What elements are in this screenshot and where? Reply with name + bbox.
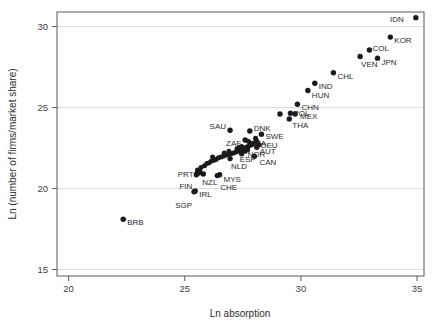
y-tick-label-30: 30 — [37, 21, 48, 32]
scatter-plot-figure: 20253035 15202530 IDNKORCOLVENJPNCHLINDH… — [0, 0, 444, 326]
x-tick-label-25: 25 — [179, 283, 190, 294]
scatter-plot-svg: 20253035 15202530 IDNKORCOLVENJPNCHLINDH… — [0, 0, 444, 326]
y-tick-label-25: 25 — [37, 102, 48, 113]
point-label-can: CAN — [259, 158, 276, 167]
data-point-hun — [305, 88, 310, 93]
point-label-nzl: NZL — [202, 178, 218, 187]
data-point-pol — [288, 111, 293, 116]
data-point-fin — [194, 172, 199, 177]
data-point-chn — [295, 102, 300, 107]
point-label-jpn: JPN — [382, 58, 397, 67]
point-label-idn: IDN — [390, 15, 404, 24]
data-point-tha — [287, 116, 292, 121]
point-label-sgp: SGP — [175, 201, 192, 210]
point-label-nld: NLD — [231, 162, 247, 171]
data-point-ven — [357, 54, 362, 59]
data-point-sau — [227, 128, 232, 133]
point-label-prt: PRT — [178, 170, 194, 179]
data-point-ind — [312, 81, 317, 86]
data-point — [222, 150, 227, 155]
point-label-col: COL — [372, 44, 389, 53]
point-label-che: CHE — [220, 183, 237, 192]
point-label-irl: IRL — [199, 190, 212, 199]
data-point-idn — [413, 15, 418, 20]
x-tick-label-30: 30 — [296, 283, 307, 294]
data-point-nld — [227, 156, 232, 161]
data-point — [210, 154, 215, 159]
data-point-col — [367, 47, 372, 52]
point-label-sau: SAU — [210, 122, 227, 131]
y-tick-label-20: 20 — [37, 183, 48, 194]
data-point-brb — [121, 217, 126, 222]
y-tick-label-15: 15 — [37, 264, 48, 275]
point-label-zaf: ZAF — [226, 139, 241, 148]
data-point-per — [277, 111, 282, 116]
point-label-chl: CHL — [337, 72, 354, 81]
data-point-dnk — [247, 128, 252, 133]
data-point-kor — [388, 34, 393, 39]
x-tick-label-20: 20 — [63, 283, 74, 294]
x-tick-label-35: 35 — [412, 283, 423, 294]
point-label-kor: KOR — [394, 36, 412, 45]
data-point-nzl — [201, 171, 206, 176]
data-point — [226, 149, 231, 154]
data-point-zaf — [242, 137, 247, 142]
point-label-tha: THA — [292, 121, 309, 130]
point-label-mex: MEX — [300, 112, 318, 121]
data-point-chl — [331, 70, 336, 75]
y-axis-title: Ln (number of firms/market share) — [7, 68, 18, 219]
x-axis-title: Ln absorption — [210, 308, 271, 319]
point-label-brb: BRB — [127, 218, 143, 227]
point-label-fin: FIN — [179, 182, 192, 191]
point-label-ven: VEN — [361, 60, 378, 69]
point-label-hun: HUN — [312, 91, 330, 100]
